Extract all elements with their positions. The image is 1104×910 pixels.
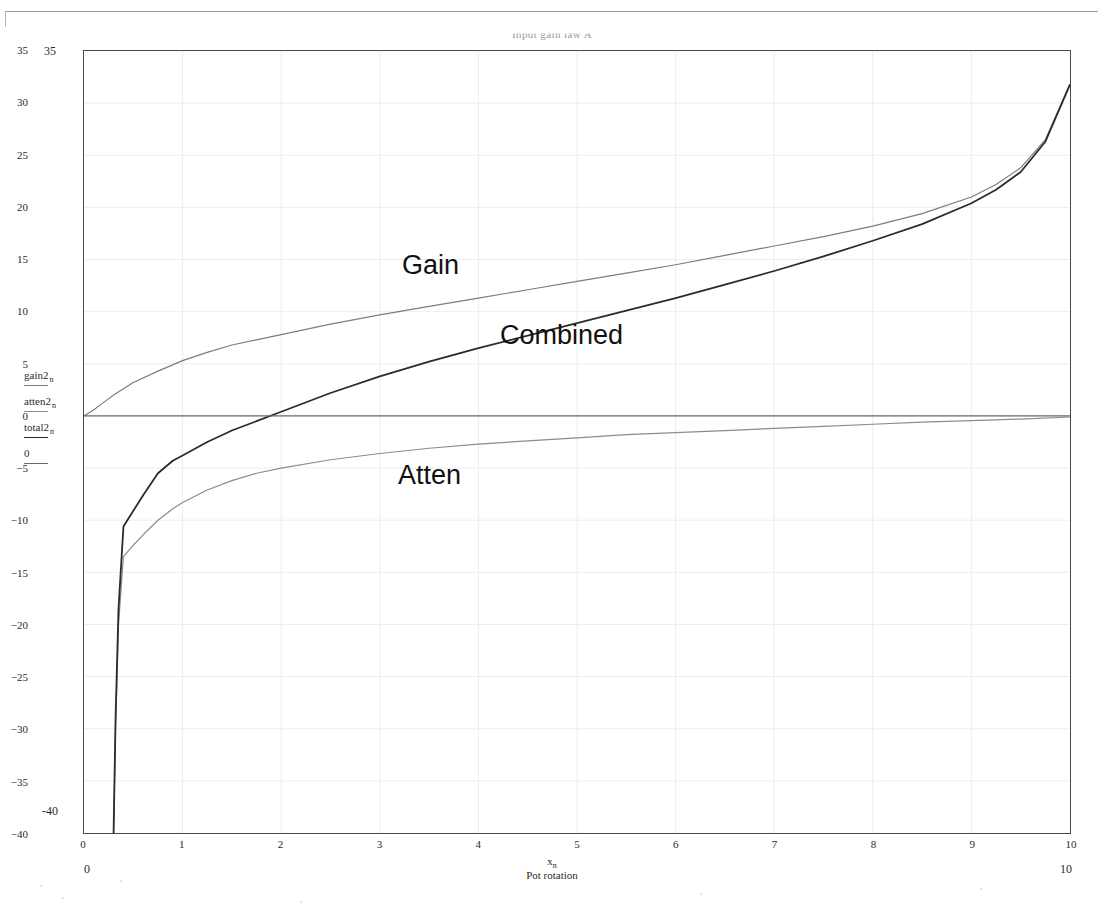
y-tick--10: −10 (0, 514, 28, 526)
legend-swatch (24, 437, 48, 438)
x-tick-5: 5 (562, 838, 592, 850)
legend-swatch (24, 385, 48, 386)
x-tick-10: 10 (1056, 838, 1086, 850)
y-tick--40: −40 (0, 828, 28, 840)
curve-label-combined: Combined (500, 320, 623, 351)
y-tick--20: −20 (0, 619, 28, 631)
plot-area (83, 50, 1071, 834)
curve-gain (84, 84, 1070, 416)
y-range-max: 35 (44, 44, 56, 59)
x-axis-label: Pot rotation (0, 869, 1104, 882)
scan-artifact-line (6, 11, 1098, 12)
y-tick-25: 25 (0, 149, 28, 161)
scan-speckle (62, 897, 64, 899)
y-tick-35: 35 (0, 44, 28, 56)
x-tick-6: 6 (661, 838, 691, 850)
curve-combined (114, 84, 1070, 833)
legend: gain2natten2ntotal2n0 (24, 370, 76, 474)
scan-speckle (40, 885, 42, 887)
y-tick--35: −35 (0, 776, 28, 788)
y-tick-10: 10 (0, 305, 28, 317)
scan-speckle (980, 888, 982, 890)
legend-label: atten2n (24, 396, 76, 407)
legend-entry-gain2: gain2n (24, 370, 76, 386)
legend-entry-atten2: atten2n (24, 396, 76, 412)
x-tick-1: 1 (167, 838, 197, 850)
y-tick-5: 5 (0, 358, 28, 370)
x-axis-variable: xn (0, 855, 1104, 868)
y-tick--25: −25 (0, 671, 28, 683)
scan-speckle (300, 901, 302, 903)
scan-speckle (700, 893, 702, 895)
curve-label-gain: Gain (402, 250, 459, 281)
curves-layer (84, 51, 1070, 833)
y-tick-15: 15 (0, 253, 28, 265)
x-tick-8: 8 (858, 838, 888, 850)
legend-entry-total2: total2n (24, 422, 76, 438)
legend-swatch (24, 463, 48, 464)
x-axis-caption: xn Pot rotation (0, 855, 1104, 881)
curve-label-atten: Atten (398, 460, 461, 491)
legend-label: 0 (24, 448, 76, 459)
y-tick-20: 20 (0, 201, 28, 213)
legend-swatch (24, 411, 48, 412)
curve-atten (114, 417, 1070, 833)
x-tick-0: 0 (68, 838, 98, 850)
chart-title: Input gain law A (0, 28, 1104, 40)
x-tick-9: 9 (957, 838, 987, 850)
legend-entry-0: 0 (24, 448, 76, 464)
x-tick-3: 3 (364, 838, 394, 850)
y-tick--30: −30 (0, 723, 28, 735)
legend-label: total2n (24, 422, 76, 433)
scan-artifact-edge (5, 11, 6, 27)
y-tick--15: −15 (0, 567, 28, 579)
x-tick-2: 2 (266, 838, 296, 850)
y-tick-30: 30 (0, 96, 28, 108)
y-range-min: -40 (42, 804, 58, 819)
scan-speckle (120, 880, 122, 882)
x-tick-4: 4 (463, 838, 493, 850)
x-tick-7: 7 (760, 838, 790, 850)
legend-label: gain2n (24, 370, 76, 381)
